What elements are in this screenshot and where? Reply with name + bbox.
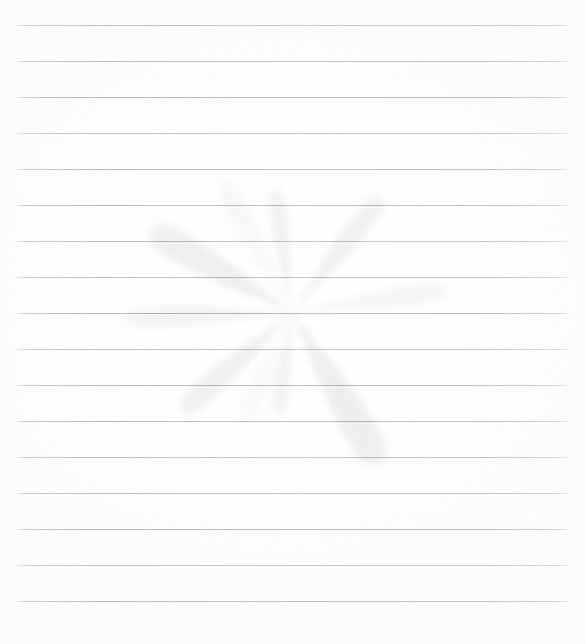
rule-line: [12, 457, 573, 458]
rule-line: [12, 493, 573, 494]
rule-line: [12, 241, 573, 242]
rule-line: [12, 529, 573, 530]
ruled-lines-layer: [0, 0, 585, 644]
rule-line: [12, 205, 573, 206]
scanned-page: [0, 0, 585, 644]
rule-line: [12, 169, 573, 170]
rule-line: [12, 277, 573, 278]
rule-line: [12, 313, 573, 314]
rule-line: [12, 97, 573, 98]
rule-line: [12, 61, 573, 62]
rule-line: [12, 349, 573, 350]
rule-line: [12, 133, 573, 134]
rule-line: [12, 25, 573, 26]
rule-line: [12, 565, 573, 566]
rule-line: [12, 385, 573, 386]
rule-line: [12, 421, 573, 422]
rule-line: [12, 601, 573, 602]
